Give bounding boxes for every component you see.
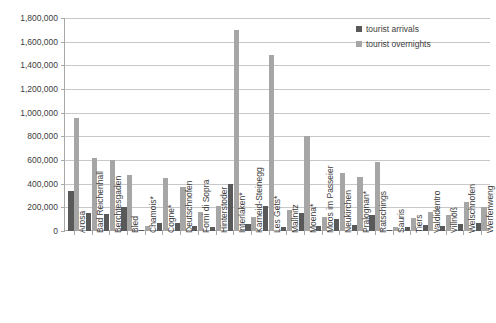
- x-axis-tick-label: Bad Reichenhall: [95, 171, 105, 233]
- y-axis-tick-label: 800,000: [0, 131, 58, 141]
- legend-swatch-overnights-icon: [356, 41, 362, 47]
- x-axis-tick-label: Sauris: [396, 209, 406, 233]
- y-axis-tick: [61, 231, 65, 232]
- y-axis-tick-label: 400,000: [0, 179, 58, 189]
- x-axis-tick-label: Mallnitz: [290, 204, 300, 233]
- x-axis-tick-label: Deutschnofen: [184, 181, 194, 233]
- x-axis-tick-label: Bled: [130, 216, 140, 233]
- y-axis-tick-label: 1,000,000: [0, 108, 58, 118]
- y-axis-tick-label: 1,600,000: [0, 37, 58, 47]
- x-axis-tick-label: Les Gets*: [272, 196, 282, 233]
- legend-label-overnights: tourist overnights: [366, 39, 431, 49]
- x-axis-tick-label: Karneid-Steinegg: [254, 167, 264, 233]
- legend-item-overnights: tourist overnights: [356, 39, 431, 49]
- x-axis-tick-label: Hinterstoder: [219, 187, 229, 233]
- x-axis-tick-label: Cogne*: [166, 205, 176, 233]
- x-axis-tick-label: Berchtesgaden: [113, 176, 123, 233]
- y-axis-tick-label: 600,000: [0, 155, 58, 165]
- legend-label-arrivals: tourist arrivals: [366, 24, 419, 34]
- y-axis-tick-label: 1,400,000: [0, 60, 58, 70]
- y-axis-tick-label: 1,200,000: [0, 84, 58, 94]
- bar-chart: 1,800,0001,600,0001,400,0001,200,0001,00…: [0, 0, 496, 323]
- x-axis-tick-label: Pralognan*: [361, 191, 371, 233]
- y-axis-tick-label: 1,800,000: [0, 13, 58, 23]
- y-axis-tick-label: 0: [0, 226, 58, 236]
- y-axis-tick-label: 200,000: [0, 202, 58, 212]
- x-axis-tick-label: Tiers: [414, 214, 424, 233]
- x-axis-tick-label: Ratschings: [378, 191, 388, 233]
- x-axis-tick-label: Moos im Passeier: [325, 165, 335, 233]
- bar-group: [295, 18, 313, 231]
- chart-legend: tourist arrivals tourist overnights: [356, 24, 431, 54]
- legend-swatch-arrivals-icon: [356, 26, 362, 32]
- x-axis-tick-label: Villnöß: [449, 207, 459, 233]
- x-axis-tick-label: Moena*: [308, 204, 318, 233]
- bar-arrivals: [68, 191, 73, 231]
- x-axis-tick-label: Arosa: [77, 211, 87, 233]
- legend-item-arrivals: tourist arrivals: [356, 24, 431, 34]
- chart-title: [0, 0, 496, 1]
- x-axis-tick-label: Werfenweng: [485, 185, 495, 233]
- x-axis-tick-label: Forni di Sopra: [201, 180, 211, 233]
- x-axis-tick-label: Welschnofen: [467, 184, 477, 233]
- x-axis-tick-label: Chamois*: [148, 196, 158, 233]
- x-axis-tick-label: Valdidentro: [432, 191, 442, 233]
- x-axis-tick-label: Neukirchen: [343, 190, 353, 233]
- x-axis-tick-label: Interlaken*: [237, 192, 247, 233]
- x-axis-labels: ArosaBad ReichenhallBerchtesgadenBledCha…: [65, 233, 489, 323]
- bar-group: [65, 18, 83, 231]
